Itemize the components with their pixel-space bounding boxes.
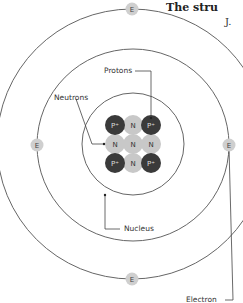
electron-leader [225,148,233,300]
atom-diagram: N N N N N P⁺ P⁺ P⁺ P⁺ E E E E [0,0,243,303]
neutron: N [123,115,143,135]
svg-text:E: E [130,6,134,14]
electron-top: E [126,3,139,16]
electron-left: E [31,139,44,152]
neutron: N [105,134,125,154]
svg-text:P⁺: P⁺ [147,160,155,168]
nucleus: N N N N N P⁺ P⁺ P⁺ P⁺ [105,115,161,173]
protons-label: Protons [104,66,132,75]
electron-right: E [223,139,236,152]
svg-text:P⁺: P⁺ [111,160,119,168]
neutron: N [123,153,143,173]
svg-text:N: N [148,141,153,149]
neutron: N [123,134,143,154]
nucleus-leader [105,195,120,229]
svg-text:N: N [130,141,135,149]
electron-label: Electron [186,295,217,303]
neutrons-label: Neutrons [54,93,88,102]
nucleus-label: Nucleus [124,224,154,233]
svg-text:P⁺: P⁺ [147,122,155,130]
proton: P⁺ [105,153,125,173]
svg-text:N: N [112,141,117,149]
svg-text:N: N [130,160,135,168]
proton: P⁺ [105,115,125,135]
proton: P⁺ [141,153,161,173]
svg-text:P⁺: P⁺ [111,122,119,130]
svg-text:E: E [35,142,39,150]
svg-text:E: E [130,276,134,284]
svg-text:N: N [130,122,135,130]
electron-bottom: E [126,273,139,286]
svg-text:E: E [227,142,231,150]
neutron: N [141,134,161,154]
